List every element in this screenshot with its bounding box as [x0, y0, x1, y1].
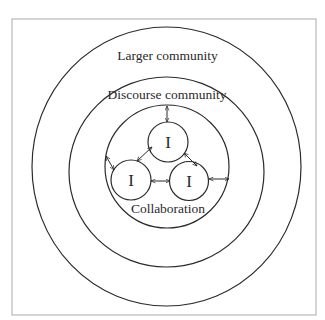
diagram-frame	[12, 19, 316, 315]
individual-left-label: I	[128, 171, 134, 190]
individual-left-node: I	[111, 160, 151, 200]
arrow-left-to-top	[137, 147, 152, 161]
collaboration-label: Collaboration	[131, 201, 205, 216]
individual-right-node: I	[170, 162, 209, 201]
community-diagram: III Larger community Discourse community…	[0, 0, 325, 320]
discourse-community-label: Discourse community	[108, 87, 227, 102]
individual-right-label: I	[186, 172, 192, 191]
community-rings	[32, 27, 301, 306]
arrow-left-to-collab-edge	[106, 156, 114, 170]
ring-larger-community	[32, 27, 301, 306]
individual-nodes: III	[111, 122, 209, 201]
individual-top-label: I	[165, 133, 171, 152]
individual-top-node: I	[148, 122, 188, 162]
larger-community-label: Larger community	[117, 48, 218, 63]
